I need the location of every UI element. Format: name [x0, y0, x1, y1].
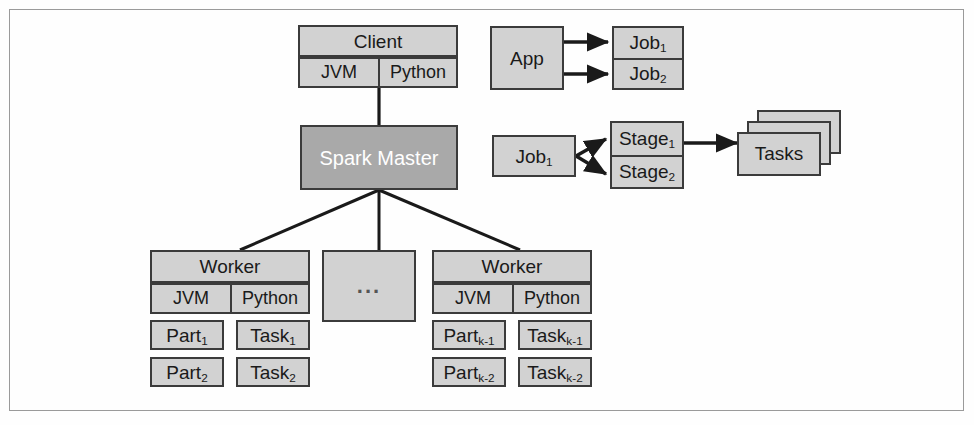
worker-left-partition-1-label: Part1 [166, 326, 207, 345]
worker-right-task-1[interactable]: Taskk-1 [518, 320, 592, 350]
worker-right-partition-2-label: Partk-2 [443, 363, 494, 382]
worker-right-runtime-jvm[interactable]: JVM [434, 285, 512, 312]
worker-ellipsis-label: ... [357, 275, 381, 297]
worker-left-runtime-python[interactable]: Python [230, 285, 308, 312]
diagram-canvas: Client JVM Python Spark Master Worker JV… [0, 0, 974, 425]
worker-left-partition-1[interactable]: Part1 [150, 320, 224, 350]
worker-left-runtime-jvm-label: JVM [173, 288, 209, 309]
worker-ellipsis-box[interactable]: ... [322, 250, 416, 322]
worker-right-runtime-python[interactable]: Python [512, 285, 590, 312]
client-title-box[interactable]: Client [298, 25, 458, 57]
client-runtime-jvm[interactable]: JVM [300, 59, 378, 86]
client-runtime-python-label: Python [390, 62, 446, 83]
client-runtime-jvm-label: JVM [321, 62, 357, 83]
job-2-row[interactable]: Job2 [614, 58, 682, 88]
app-box[interactable]: App [490, 26, 564, 90]
worker-right-partition-2[interactable]: Partk-2 [432, 357, 506, 387]
worker-right-runtime-jvm-label: JVM [455, 288, 491, 309]
worker-right-task-2[interactable]: Taskk-2 [518, 357, 592, 387]
worker-right-title-label: Worker [482, 257, 543, 276]
worker-left-runtime-jvm[interactable]: JVM [152, 285, 230, 312]
client-title-label: Client [354, 32, 403, 51]
job-2-label: Job2 [629, 63, 666, 85]
worker-left-partition-2-label: Part2 [166, 363, 207, 382]
job-source-label: Job1 [515, 147, 552, 166]
worker-right-partition-1-label: Partk-1 [443, 326, 494, 345]
jobs-box[interactable]: Job1 Job2 [612, 26, 684, 90]
job-1-row[interactable]: Job1 [614, 28, 682, 58]
worker-left-runtime-python-label: Python [242, 288, 298, 309]
stage-1-row[interactable]: Stage1 [612, 123, 682, 155]
stage-1-label: Stage1 [619, 128, 675, 150]
worker-left-partition-2[interactable]: Part2 [150, 357, 224, 387]
job-1-label: Job1 [629, 32, 666, 54]
client-runtime-row[interactable]: JVM Python [298, 57, 458, 88]
spark-master-label: Spark Master [320, 148, 439, 168]
worker-right-runtime-python-label: Python [524, 288, 580, 309]
stages-box[interactable]: Stage1 Stage2 [610, 121, 684, 189]
worker-left-runtime-row[interactable]: JVM Python [150, 283, 310, 314]
worker-right-title-box[interactable]: Worker [432, 250, 592, 283]
stage-2-label: Stage2 [619, 161, 675, 183]
job-source-box[interactable]: Job1 [492, 135, 576, 177]
client-runtime-python[interactable]: Python [378, 59, 456, 86]
stage-2-row[interactable]: Stage2 [612, 155, 682, 187]
worker-left-task-1[interactable]: Task1 [236, 320, 310, 350]
worker-right-task-2-label: Taskk-2 [527, 363, 582, 382]
tasks-label: Tasks [755, 143, 804, 165]
tasks-stack[interactable]: Tasks [737, 110, 847, 180]
worker-left-title-label: Worker [200, 257, 261, 276]
worker-right-partition-1[interactable]: Partk-1 [432, 320, 506, 350]
app-label: App [510, 49, 544, 68]
worker-left-task-2-label: Task2 [250, 363, 296, 382]
worker-left-title-box[interactable]: Worker [150, 250, 310, 283]
worker-left-task-1-label: Task1 [250, 326, 296, 345]
figure-border [9, 9, 964, 411]
tasks-card-front[interactable]: Tasks [737, 132, 821, 176]
spark-master-box[interactable]: Spark Master [300, 125, 458, 190]
worker-left-task-2[interactable]: Task2 [236, 357, 310, 387]
worker-right-task-1-label: Taskk-1 [527, 326, 582, 345]
worker-right-runtime-row[interactable]: JVM Python [432, 283, 592, 314]
